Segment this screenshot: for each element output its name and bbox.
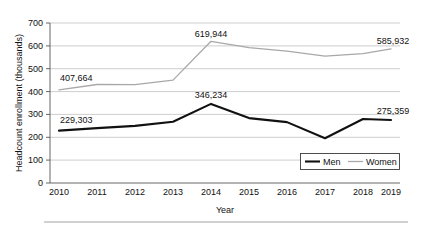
x-tick-label-2015: 2015 <box>239 187 259 197</box>
y-tick-label-500: 500 <box>28 64 43 74</box>
y-tick-label-100: 100 <box>28 155 43 165</box>
data-label-women-2019: 585,932 <box>377 36 410 46</box>
data-label-men-2014: 346,234 <box>195 90 228 100</box>
y-tick-label-0: 0 <box>38 178 43 188</box>
y-tick-label-400: 400 <box>28 87 43 97</box>
x-tick-label-2010: 2010 <box>49 187 69 197</box>
legend-label-women[interactable]: Women <box>366 157 397 167</box>
y-tick-label-700: 700 <box>28 18 43 28</box>
x-tick-label-2012: 2012 <box>125 187 145 197</box>
series-line-women <box>59 41 391 90</box>
x-tick-label-2017: 2017 <box>315 187 335 197</box>
y-axis-title: Headcount enrollment (thousands) <box>14 34 24 172</box>
data-label-women-2010: 407,664 <box>60 73 93 83</box>
x-tick-label-2019: 2019 <box>381 187 401 197</box>
x-tick-labels: 2010 2011 2012 2013 2014 2015 2016 2017 … <box>49 187 401 197</box>
x-tick-label-2013: 2013 <box>163 187 183 197</box>
chart-canvas: 700 600 500 400 300 200 100 0 2010 2011 … <box>0 0 431 229</box>
x-axis-title: Year <box>216 205 234 215</box>
chart-legend[interactable]: Men Women <box>301 154 400 170</box>
y-tick-label-300: 300 <box>28 109 43 119</box>
legend-label-men[interactable]: Men <box>323 157 341 167</box>
data-point-labels: 407,664 619,944 585,932 229,303 346,234 … <box>60 29 409 125</box>
y-tick-labels: 700 600 500 400 300 200 100 0 <box>28 18 43 188</box>
data-label-men-2019: 275,359 <box>377 106 410 116</box>
line-chart-figure: 700 600 500 400 300 200 100 0 2010 2011 … <box>0 0 431 229</box>
x-tick-label-2018: 2018 <box>353 187 373 197</box>
data-label-women-2014: 619,944 <box>195 29 228 39</box>
x-tick-label-2014: 2014 <box>201 187 221 197</box>
y-tick-label-600: 600 <box>28 41 43 51</box>
series-line-men <box>59 104 391 138</box>
x-tick-label-2011: 2011 <box>87 187 106 197</box>
y-axis <box>46 23 50 183</box>
y-tick-label-200: 200 <box>28 132 43 142</box>
x-tick-label-2016: 2016 <box>277 187 297 197</box>
data-label-men-2010: 229,303 <box>60 115 93 125</box>
